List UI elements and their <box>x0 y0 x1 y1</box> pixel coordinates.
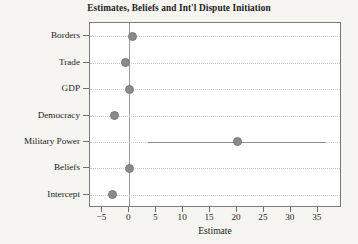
y-axis-tick-label: Intercept <box>47 189 80 199</box>
estimate-point-marker <box>125 85 134 94</box>
x-axis-tick-label: 25 <box>258 212 267 222</box>
grid-line <box>90 116 340 117</box>
x-axis-tick-label: 5 <box>153 212 158 222</box>
chart-figure: Estimates, Beliefs and Int'l Dispute Ini… <box>0 0 358 244</box>
y-axis-tick-mark <box>83 88 89 89</box>
y-axis-tick-mark <box>83 62 89 63</box>
estimate-point-marker <box>233 137 242 146</box>
y-axis-tick-label: Trade <box>59 57 80 67</box>
y-axis-tick-label: Democracy <box>38 110 80 120</box>
x-axis-tick-label: 10 <box>178 212 187 222</box>
y-axis-tick-mark <box>83 35 89 36</box>
x-axis-tick-label: −5 <box>96 212 106 222</box>
x-axis-title: Estimate <box>89 225 341 236</box>
grid-line <box>90 195 340 196</box>
y-axis-tick-mark <box>83 141 89 142</box>
x-axis-tick-label: 30 <box>285 212 294 222</box>
y-axis-tick-label: Borders <box>51 30 80 40</box>
x-axis-tick-label: 0 <box>126 212 131 222</box>
x-axis-tick-label: 15 <box>204 212 213 222</box>
y-axis-tick-mark <box>83 194 89 195</box>
zero-reference-line <box>129 23 130 206</box>
estimate-point-marker <box>125 164 134 173</box>
y-axis-tick-label: Military Power <box>24 136 80 146</box>
y-axis-tick-mark <box>83 115 89 116</box>
y-axis-tick-label: GDP <box>62 83 80 93</box>
y-axis-tick-label: Beliefs <box>54 162 80 172</box>
y-axis-labels: BordersTradeGDPDemocracyMilitary PowerBe… <box>0 0 80 244</box>
x-axis-tick-label: 20 <box>231 212 240 222</box>
x-axis-tick-label: 35 <box>312 212 321 222</box>
estimate-point-marker <box>128 32 137 41</box>
estimate-point-marker <box>110 111 119 120</box>
plot-area <box>89 22 341 207</box>
estimate-point-marker <box>108 190 117 199</box>
y-axis-tick-mark <box>83 167 89 168</box>
